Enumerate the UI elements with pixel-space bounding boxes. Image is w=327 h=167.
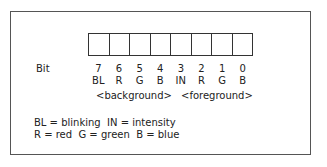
bit-cell-5: [130, 34, 151, 55]
bit-label: Bit: [36, 63, 50, 74]
bit-code: G: [212, 75, 233, 86]
legend-line-2: R = red G = green B = blue: [34, 129, 179, 140]
bit-number: 5: [129, 63, 150, 74]
bit-code: R: [191, 75, 212, 86]
bit-number: 2: [191, 63, 212, 74]
bit-cell-4: [151, 34, 172, 55]
bit-number: 4: [150, 63, 171, 74]
legend-line-1: BL = blinking IN = intensity: [34, 117, 176, 128]
bit-cell-0: [233, 34, 253, 55]
bit-code: R: [109, 75, 130, 86]
bit-cell-7: [89, 34, 110, 55]
bit-codes: BL R G B IN R G B: [88, 75, 253, 86]
bit-number: 3: [171, 63, 192, 74]
bit-number: 6: [109, 63, 130, 74]
bit-code: B: [232, 75, 253, 86]
bit-number: 0: [232, 63, 253, 74]
bit-code: B: [150, 75, 171, 86]
bit-cell-1: [212, 34, 233, 55]
bit-code: BL: [88, 75, 109, 86]
bit-cells: [88, 33, 253, 56]
bit-cell-3: [171, 34, 192, 55]
bit-cell-6: [110, 34, 131, 55]
bit-code: G: [129, 75, 150, 86]
bit-cell-2: [192, 34, 213, 55]
background-group-label: <background>: [96, 90, 172, 101]
bit-number: 7: [88, 63, 109, 74]
foreground-group-label: <foreground>: [181, 90, 253, 101]
bit-code: IN: [171, 75, 192, 86]
bit-numbers: 7 6 5 4 3 2 1 0: [88, 63, 253, 74]
bit-number: 1: [212, 63, 233, 74]
